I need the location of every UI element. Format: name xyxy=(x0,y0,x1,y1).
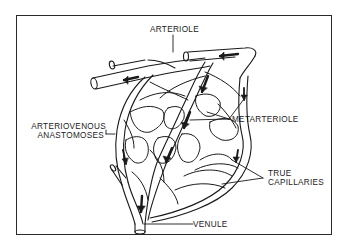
label-metarteriole: METARTERIOLE xyxy=(232,115,299,124)
label-arteriovenous: ARTERIOVENOUS xyxy=(30,122,106,131)
label-arteriole: ARTERIOLE xyxy=(150,25,199,34)
label-anastomoses: ANASTOMOSES xyxy=(30,131,104,140)
venule-vessel xyxy=(109,164,145,234)
label-capillaries: CAPILLARIES xyxy=(268,178,324,187)
label-true: TRUE xyxy=(268,169,292,178)
metarteriole-vessel xyxy=(145,62,251,224)
flow-arrows xyxy=(122,52,247,212)
label-venule: VENULE xyxy=(193,220,228,229)
